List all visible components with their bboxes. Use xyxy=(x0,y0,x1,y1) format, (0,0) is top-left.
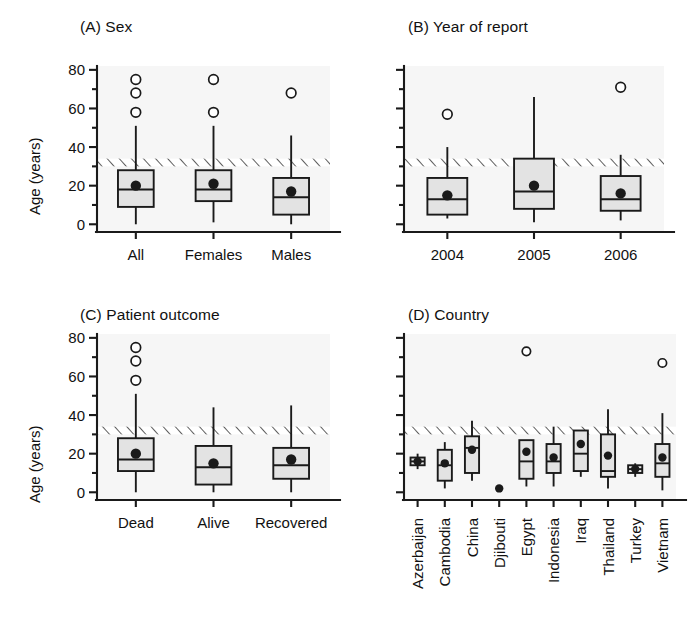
outlier-marker xyxy=(209,75,219,85)
mean-marker xyxy=(495,484,503,492)
mean-marker xyxy=(529,180,539,190)
mean-marker xyxy=(577,440,585,448)
x-category-label: Males xyxy=(271,246,311,263)
outlier-marker xyxy=(286,88,296,98)
panel-d: (D) Country AzerbaijanCambodiaChinaDjibo… xyxy=(346,300,691,627)
x-category-label: Djibouti xyxy=(491,518,508,568)
mean-marker xyxy=(631,465,639,473)
figure-boxplot-grid: (A) Sex Age (years) 020406080AllFemalesM… xyxy=(0,0,691,627)
y-tick-label: 0 xyxy=(77,216,85,233)
mean-marker xyxy=(208,179,218,189)
panel-a-plot: 020406080AllFemalesMales xyxy=(0,0,345,300)
x-category-label: Thailand xyxy=(600,518,617,576)
reference-band xyxy=(404,427,676,435)
x-category-label: Iraq xyxy=(572,518,589,544)
outlier-marker xyxy=(658,359,666,367)
outlier-marker xyxy=(131,108,141,118)
mean-marker xyxy=(131,448,141,458)
x-category-label: Indonesia xyxy=(545,517,562,583)
x-category-label: Dead xyxy=(118,514,154,531)
panel-a: (A) Sex Age (years) 020406080AllFemalesM… xyxy=(0,0,345,300)
y-tick-label: 80 xyxy=(68,329,85,346)
box-iqr xyxy=(519,440,533,479)
panel-b: (B) Year of report 200420052006 xyxy=(346,0,691,300)
x-category-label: 2005 xyxy=(517,246,550,263)
mean-marker xyxy=(208,458,218,468)
outlier-marker xyxy=(616,82,626,92)
y-tick-label: 80 xyxy=(68,61,85,78)
outlier-marker xyxy=(131,343,141,353)
y-tick-label: 20 xyxy=(68,177,85,194)
x-category-label: Turkey xyxy=(627,518,644,564)
x-category-label: China xyxy=(464,517,481,557)
x-category-label: Cambodia xyxy=(436,517,453,586)
outlier-marker xyxy=(131,356,141,366)
box-iqr xyxy=(465,436,479,473)
mean-marker xyxy=(615,188,625,198)
box-iqr xyxy=(574,431,588,472)
x-category-label: 2004 xyxy=(431,246,464,263)
outlier-marker xyxy=(131,88,141,98)
x-category-label: Recovered xyxy=(255,514,328,531)
mean-marker xyxy=(442,190,452,200)
mean-marker xyxy=(522,448,530,456)
panel-d-plot: AzerbaijanCambodiaChinaDjiboutiEgyptIndo… xyxy=(346,300,691,627)
outlier-marker xyxy=(209,108,219,118)
x-category-label: Azerbaijan xyxy=(409,518,426,589)
mean-marker xyxy=(286,186,296,196)
mean-marker xyxy=(413,457,421,465)
mean-marker xyxy=(286,454,296,464)
x-category-label: All xyxy=(127,246,144,263)
outlier-marker xyxy=(131,376,141,386)
y-tick-label: 40 xyxy=(68,407,85,424)
boxplot-cambodia: Cambodia xyxy=(436,442,453,586)
y-tick-label: 20 xyxy=(68,445,85,462)
mean-marker xyxy=(468,446,476,454)
outlier-marker xyxy=(131,75,141,85)
mean-marker xyxy=(441,459,449,467)
y-tick-label: 60 xyxy=(68,100,85,117)
mean-marker xyxy=(658,453,666,461)
y-tick-label: 60 xyxy=(68,368,85,385)
x-category-label: 2006 xyxy=(604,246,637,263)
x-category-label: Females xyxy=(185,246,243,263)
mean-marker xyxy=(604,451,612,459)
x-category-label: Alive xyxy=(197,514,230,531)
boxplot-indonesia: Indonesia xyxy=(545,427,562,583)
outlier-marker xyxy=(522,347,530,355)
panel-b-plot: 200420052006 xyxy=(346,0,691,300)
outlier-marker xyxy=(443,109,453,119)
x-category-label: Vietnam xyxy=(654,518,671,573)
panel-c-plot: 020406080DeadAliveRecovered xyxy=(0,300,345,627)
y-tick-label: 40 xyxy=(68,139,85,156)
x-category-label: Egypt xyxy=(518,517,535,556)
mean-marker xyxy=(131,180,141,190)
panel-c: (C) Patient outcome Age (years) 02040608… xyxy=(0,300,345,627)
y-tick-label: 0 xyxy=(77,484,85,501)
mean-marker xyxy=(549,453,557,461)
